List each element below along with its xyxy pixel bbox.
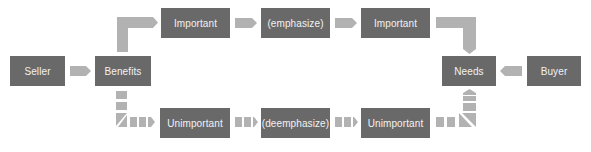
node-benefits-label: Benefits <box>105 66 142 77</box>
node-emphasize-label: (emphasize) <box>267 18 323 29</box>
dash-unimp-to-deemph-1 <box>235 117 242 127</box>
dash-needs-left-2 <box>447 117 455 127</box>
node-needs: Needs <box>442 56 496 86</box>
node-emphasize: (emphasize) <box>261 8 330 38</box>
node-seller-label: Seller <box>24 66 50 77</box>
dash-deemph-to-unimp-1 <box>335 117 342 127</box>
dash-needs-up-1 <box>463 103 476 111</box>
dash-benefits-right-1 <box>130 117 137 127</box>
dash-unimp-to-deemph-arrowhead <box>253 117 258 127</box>
dash-benefits-down-1 <box>116 91 127 99</box>
node-deemphasize-label: (deemphasize) <box>262 118 329 129</box>
node-important-2-label: Important <box>374 18 417 29</box>
arrow-emphasize-to-important <box>335 18 357 28</box>
node-important-1: Important <box>161 8 230 38</box>
dash-benefits-right-2 <box>139 117 146 127</box>
node-seller: Seller <box>10 56 65 86</box>
dash-needs-arrowhead-up <box>463 89 476 95</box>
dash-needs-left-1 <box>436 117 444 127</box>
node-buyer-label: Buyer <box>541 66 568 77</box>
dash-benefits-arrowhead <box>148 117 155 127</box>
arrow-buyer-to-needs <box>500 66 522 76</box>
arrow-seller-to-benefits <box>70 66 91 76</box>
node-unimportant-1: Unimportant <box>160 108 230 138</box>
node-important-2: Important <box>361 8 430 38</box>
node-unimportant-2: Unimportant <box>361 108 430 138</box>
node-unimportant-2-label: Unimportant <box>368 118 424 129</box>
node-benefits: Benefits <box>95 56 151 86</box>
node-deemphasize: (deemphasize) <box>261 108 330 138</box>
arrow-benefits-to-important <box>117 17 158 52</box>
dash-unimp-to-deemph-2 <box>244 117 251 127</box>
node-needs-label: Needs <box>454 66 483 77</box>
dash-deemph-to-unimp-2 <box>344 117 351 127</box>
dash-needs-up-2 <box>463 96 476 101</box>
dash-deemph-to-unimp-arrowhead <box>353 117 358 127</box>
node-buyer: Buyer <box>527 56 581 86</box>
node-unimportant-1-label: Unimportant <box>167 118 223 129</box>
arrow-important-to-needs <box>436 17 476 54</box>
arrow-important-to-emphasize <box>235 18 257 28</box>
dash-benefits-down-2 <box>116 102 127 110</box>
node-important-1-label: Important <box>174 18 217 29</box>
